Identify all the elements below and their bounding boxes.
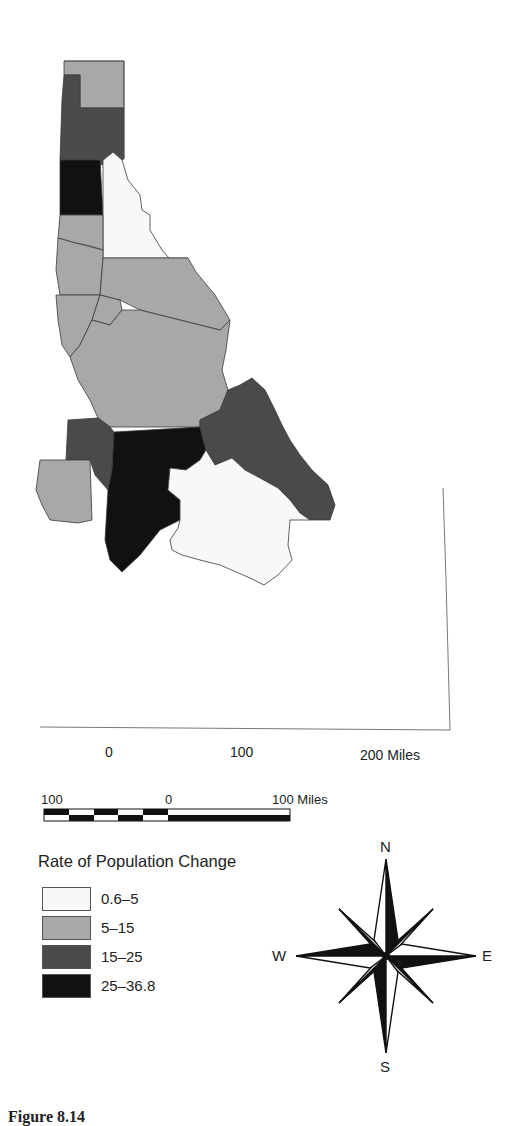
legend-label: 25–36.8 (101, 977, 155, 994)
compass-rose (296, 859, 476, 1053)
bar-scale-tick-zero: 0 (165, 792, 172, 807)
legend-item-class4: 25–36.8 (42, 973, 155, 998)
county-kootenai (60, 160, 103, 215)
top-scale-tick-100: 100 (230, 744, 253, 760)
legend-item-class3: 15–25 (42, 944, 143, 969)
county-washington (36, 460, 92, 523)
legend-swatch (42, 974, 91, 998)
compass-west-label: W (272, 947, 286, 964)
compass-north-label: N (380, 838, 391, 855)
legend-label: 5–15 (101, 919, 134, 936)
legend-label: 15–25 (101, 948, 143, 965)
top-scale-tick-0: 0 (105, 744, 113, 760)
county-idaho (70, 310, 230, 427)
legend-item-class1: 0.6–5 (42, 886, 139, 911)
legend-label: 0.6–5 (101, 890, 139, 907)
top-scale-tick-200: 200 Miles (360, 747, 420, 763)
legend-swatch (42, 945, 91, 969)
bar-scale (44, 809, 290, 821)
figure-caption: Figure 8.14 (8, 1108, 85, 1126)
county-shoshone (103, 152, 188, 265)
bar-scale-tick-right: 100 Miles (272, 792, 328, 807)
legend-swatch (42, 887, 91, 911)
legend-item-class2: 5–15 (42, 915, 134, 940)
legend-swatch (42, 916, 91, 940)
legend-title: Rate of Population Change (38, 852, 236, 871)
compass-south-label: S (380, 1058, 390, 1075)
bar-scale-tick-left: 100 (41, 792, 63, 807)
compass-east-label: E (482, 947, 492, 964)
